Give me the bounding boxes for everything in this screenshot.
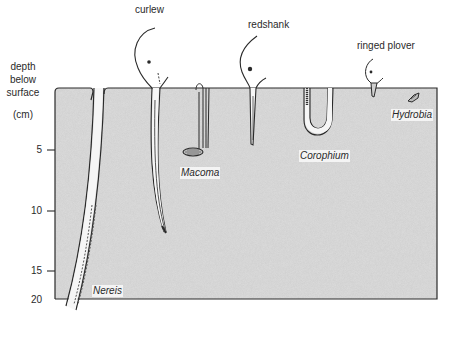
mud-layer — [55, 88, 437, 299]
redshank-label: redshank — [248, 19, 289, 31]
macoma-label: Macoma — [180, 167, 220, 179]
depth-axis-title: depth below surface — [2, 60, 44, 99]
tick-label-20: 20 — [20, 294, 42, 306]
corophium-label: Corophium — [299, 150, 350, 162]
axis-title-line: below — [2, 73, 44, 86]
nereis-label: Nereis — [92, 285, 123, 297]
axis-title-line: depth — [2, 60, 44, 73]
axis-title-line: surface — [2, 86, 44, 99]
depth-axis — [47, 150, 55, 271]
depth-axis-unit: (cm) — [2, 108, 44, 121]
curlew-label: curlew — [135, 4, 164, 16]
tick-label-10: 10 — [20, 205, 42, 217]
ringed-plover-label: ringed plover — [357, 40, 415, 52]
tick-label-5: 5 — [20, 144, 42, 156]
hydrobia-label: Hydrobia — [391, 109, 433, 121]
mudflat-diagram — [0, 0, 451, 348]
tick-label-15: 15 — [20, 265, 42, 277]
